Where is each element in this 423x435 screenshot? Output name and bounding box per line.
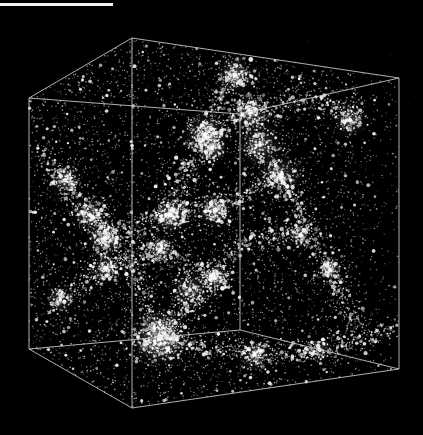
- cube-edge: [132, 369, 399, 408]
- cube-edge: [29, 330, 240, 349]
- cube-edge: [240, 78, 399, 114]
- cube-edge: [29, 98, 240, 114]
- scale-bar: [0, 3, 113, 6]
- cube-edge: [132, 38, 399, 78]
- cube-edge: [29, 349, 132, 408]
- simulation-cube-visualization: [0, 0, 423, 435]
- cube-edge: [29, 38, 132, 98]
- cube-wireframe: [0, 0, 423, 435]
- cube-edge: [240, 330, 399, 369]
